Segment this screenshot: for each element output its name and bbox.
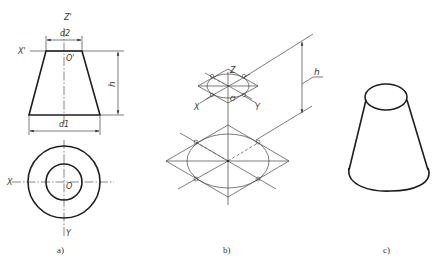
figure-b-isometric-construction: Z X Y O h [166, 34, 323, 205]
label-x: X [6, 178, 13, 187]
figure-a-front-view: Z' d2 X' O' h d1 [17, 13, 124, 135]
label-o-prime: O' [66, 54, 75, 63]
cone-left-generator [349, 100, 366, 170]
label-z: Z [229, 66, 236, 75]
frustum-front-outline [29, 51, 100, 115]
cone-bottom-curve [349, 168, 429, 191]
drawing-stage: Z' d2 X' O' h d1 X O Y a) Z X Y O [0, 0, 434, 266]
label-d1: d1 [59, 120, 69, 129]
cone-top-ellipse [365, 84, 407, 110]
caption-c: c) [383, 245, 390, 255]
label-z-prime: Z' [63, 13, 72, 22]
cone-right-generator [407, 100, 428, 170]
y-axis-small [244, 96, 256, 103]
extension-line-bottom [256, 106, 312, 140]
label-o: O [66, 182, 72, 191]
label-o-iso: O [230, 95, 236, 103]
figure-c-isometric-cone [349, 84, 429, 191]
caption-a: a) [57, 245, 64, 255]
label-d2: d2 [60, 29, 70, 38]
caption-b: b) [223, 245, 231, 255]
label-h-front: h [107, 81, 117, 87]
label-x-iso: X [193, 103, 200, 112]
x-axis-small [200, 96, 212, 103]
label-h-iso: h [314, 67, 320, 77]
label-x-prime: X' [17, 47, 26, 56]
label-y: Y [66, 229, 72, 238]
figure-a-top-view: X O Y [6, 140, 114, 238]
extension-line-top [243, 34, 313, 78]
label-y-iso: Y [255, 103, 261, 112]
